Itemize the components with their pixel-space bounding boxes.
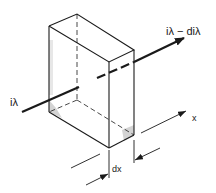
exiting-ray: [134, 38, 184, 62]
thickness-label: dx: [112, 164, 122, 174]
internal-ray: [97, 62, 134, 78]
x-axis-arrow: [141, 111, 186, 133]
slab-diagram: iλ iλ − diλ x dx: [0, 0, 216, 193]
x-axis-label: x: [192, 113, 197, 123]
slab-hidden-edges: [49, 14, 134, 135]
slab-shading: [49, 40, 134, 141]
incident-intensity-label: iλ: [10, 96, 18, 108]
slab: [49, 14, 134, 148]
exiting-intensity-label: iλ − diλ: [166, 25, 201, 37]
dx-dimension: [71, 140, 160, 185]
